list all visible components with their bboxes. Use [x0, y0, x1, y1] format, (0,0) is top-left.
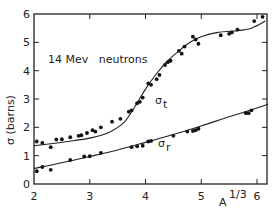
- y-tick-label: 2: [23, 121, 30, 134]
- data-point: [177, 49, 181, 53]
- data-point: [85, 131, 89, 135]
- data-point: [197, 127, 201, 131]
- data-point: [250, 108, 254, 112]
- data-point: [171, 134, 175, 138]
- y-tick-label: 5: [23, 36, 30, 49]
- data-point: [261, 15, 265, 19]
- sigma-r-label: σ r: [158, 137, 171, 154]
- y-tick-label: 1: [23, 150, 30, 163]
- data-point: [93, 130, 97, 134]
- svg-text:t: t: [163, 98, 168, 111]
- data-point: [191, 35, 195, 39]
- chart-annotation: 14 Mev neutrons: [48, 53, 148, 66]
- data-point: [155, 77, 159, 81]
- data-point: [49, 145, 53, 149]
- data-point: [119, 117, 123, 121]
- data-point: [49, 168, 53, 172]
- data-points: [35, 15, 265, 173]
- data-point: [135, 144, 139, 148]
- data-point: [35, 169, 39, 173]
- x-tick-label: 5: [198, 190, 205, 203]
- data-point: [230, 31, 234, 35]
- data-point: [130, 108, 134, 112]
- data-point: [88, 154, 92, 158]
- x-axis-label: A 1/3: [219, 188, 247, 209]
- svg-text:1/3: 1/3: [229, 188, 247, 201]
- data-point: [141, 144, 145, 148]
- x-tick-label: 3: [86, 190, 93, 203]
- data-point: [236, 28, 240, 32]
- x-tick-label: 2: [31, 190, 38, 203]
- x-axis-ticks: 23456: [31, 14, 261, 203]
- data-point: [163, 63, 167, 67]
- svg-text:σ: σ: [158, 137, 165, 150]
- data-point: [79, 133, 83, 137]
- x-tick-label: 4: [142, 190, 149, 203]
- sigma-t-label: σ t: [155, 94, 168, 111]
- data-point: [180, 52, 184, 56]
- data-point: [183, 45, 187, 49]
- y-tick-label: 6: [23, 8, 30, 21]
- data-point: [149, 139, 153, 143]
- data-point: [247, 111, 251, 115]
- data-point: [40, 165, 44, 169]
- svg-text:r: r: [166, 141, 171, 154]
- svg-text:σ: σ: [155, 94, 162, 107]
- data-point: [197, 42, 201, 46]
- svg-text:σ (barns): σ (barns): [4, 95, 17, 145]
- data-point: [68, 158, 72, 162]
- data-point: [40, 141, 44, 145]
- data-point: [138, 100, 142, 104]
- y-axis-label: σ (barns): [4, 95, 17, 145]
- svg-text:A: A: [219, 196, 227, 209]
- x-tick-label: 6: [254, 190, 261, 203]
- data-point: [60, 137, 64, 141]
- data-point: [35, 140, 39, 144]
- data-point: [252, 19, 256, 23]
- fit-curves: [34, 21, 268, 168]
- data-point: [185, 130, 189, 134]
- data-point: [99, 125, 103, 129]
- data-point: [110, 120, 114, 124]
- plot-frame: [34, 14, 267, 184]
- cross-section-chart: 0123456 23456 14 Mev neutrons σ t σ r σ …: [0, 0, 278, 213]
- data-point: [194, 38, 198, 42]
- data-point: [82, 155, 86, 159]
- data-point: [219, 33, 223, 37]
- data-point: [158, 73, 162, 77]
- data-point: [149, 83, 153, 87]
- y-tick-label: 4: [23, 65, 30, 78]
- data-point: [141, 96, 145, 100]
- y-tick-label: 3: [23, 93, 30, 106]
- data-point: [169, 59, 173, 63]
- data-point: [99, 151, 103, 155]
- y-tick-label: 0: [23, 178, 30, 191]
- data-point: [54, 138, 58, 142]
- data-point: [68, 135, 72, 139]
- data-point: [130, 145, 134, 149]
